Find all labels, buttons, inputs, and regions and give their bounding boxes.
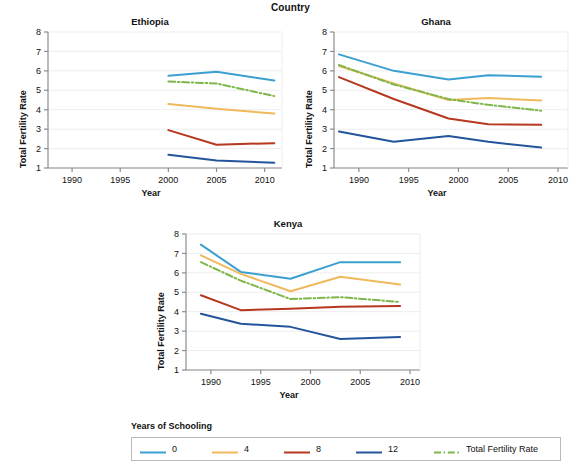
y-tick-label: 4	[36, 105, 41, 115]
figure-title: Country	[0, 2, 581, 13]
plot-area: 1234567819901995200020052010	[10, 16, 290, 191]
panel-ghana: Ghana Total Fertility Rate 1234567819901…	[296, 16, 576, 206]
y-tick-label: 8	[322, 27, 327, 37]
y-tick-label: 2	[174, 346, 179, 356]
x-tick-label: 2005	[207, 175, 227, 185]
x-axis-label: Year	[26, 188, 276, 198]
y-tick-label: 7	[174, 249, 179, 259]
y-tick-label: 4	[174, 307, 179, 317]
legend-item[interactable]: 4	[212, 440, 249, 458]
x-axis-label: Year	[312, 188, 562, 198]
legend-item-label: 4	[244, 444, 249, 454]
legend-item[interactable]: 8	[284, 440, 321, 458]
legend-item[interactable]: 0	[140, 440, 177, 458]
legend-item-label: 8	[316, 444, 321, 454]
plot-area: 1234567819901995200020052010	[148, 218, 428, 393]
series-line	[339, 65, 541, 111]
y-tick-label: 1	[322, 163, 327, 173]
x-tick-label: 2000	[158, 175, 178, 185]
series-line	[201, 314, 400, 339]
legend-item-label: Total Fertility Rate	[466, 444, 538, 454]
y-tick-label: 5	[36, 85, 41, 95]
x-tick-label: 1995	[251, 377, 271, 387]
y-tick-label: 3	[322, 124, 327, 134]
series-line	[168, 72, 274, 81]
x-tick-label: 1990	[62, 175, 82, 185]
y-tick-label: 8	[174, 229, 179, 239]
y-tick-label: 2	[322, 144, 327, 154]
x-axis-label: Year	[164, 390, 414, 400]
y-tick-label: 1	[36, 163, 41, 173]
series-line	[339, 131, 541, 147]
legend-swatch-icon	[284, 444, 310, 455]
y-tick-label: 6	[174, 268, 179, 278]
x-tick-label: 1990	[349, 175, 369, 185]
y-tick-label: 3	[36, 124, 41, 134]
legend-item[interactable]: Total Fertility Rate	[434, 440, 538, 458]
x-tick-label: 2005	[350, 377, 370, 387]
legend-title: Years of Schooling	[131, 421, 212, 431]
y-tick-label: 5	[174, 287, 179, 297]
x-tick-label: 2005	[498, 175, 518, 185]
y-tick-label: 6	[322, 66, 327, 76]
legend-item[interactable]: 12	[356, 440, 398, 458]
x-tick-label: 2010	[400, 377, 420, 387]
y-tick-label: 1	[174, 365, 179, 375]
x-tick-label: 1995	[110, 175, 130, 185]
series-line	[168, 104, 274, 114]
panel-kenya: Kenya Total Fertility Rate 1234567819901…	[148, 218, 428, 408]
x-tick-label: 2000	[300, 377, 320, 387]
legend-item-label: 12	[388, 444, 398, 454]
series-line	[201, 295, 400, 310]
x-tick-label: 1990	[201, 377, 221, 387]
series-line	[168, 82, 274, 97]
x-tick-label: 2010	[548, 175, 568, 185]
legend-swatch-icon	[434, 444, 460, 455]
x-tick-label: 2000	[448, 175, 468, 185]
panel-ethiopia: Ethiopia Total Fertility Rate 1234567819…	[10, 16, 290, 206]
y-tick-label: 7	[36, 47, 41, 57]
legend-item-label: 0	[172, 444, 177, 454]
y-tick-label: 4	[322, 105, 327, 115]
figure-root: Country Ethiopia Total Fertility Rate 12…	[0, 0, 581, 469]
series-line	[168, 130, 274, 145]
series-line	[168, 155, 274, 163]
legend-swatch-icon	[356, 444, 382, 455]
y-tick-label: 3	[174, 326, 179, 336]
y-tick-label: 5	[322, 85, 327, 95]
legend: 04812Total Fertility Rate	[131, 437, 561, 461]
series-line	[339, 77, 541, 125]
y-tick-label: 2	[36, 144, 41, 154]
series-line	[201, 245, 400, 279]
legend-swatch-icon	[212, 444, 238, 455]
y-tick-label: 8	[36, 27, 41, 37]
y-tick-label: 6	[36, 66, 41, 76]
plot-area: 1234567819901995200020052010	[296, 16, 576, 191]
x-tick-label: 2010	[255, 175, 275, 185]
y-tick-label: 7	[322, 47, 327, 57]
x-tick-label: 1995	[399, 175, 419, 185]
legend-swatch-icon	[140, 444, 166, 455]
